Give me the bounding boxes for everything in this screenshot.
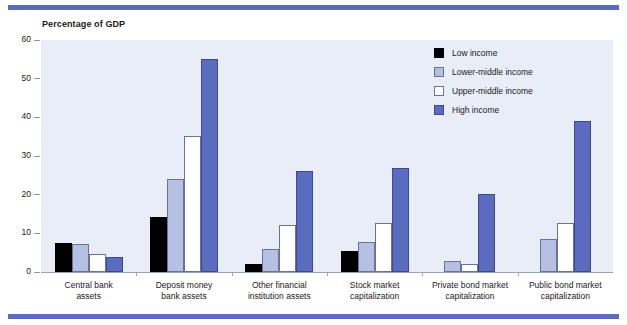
x-axis-category-label-line: Stock market [327,280,422,291]
bar-group [41,40,136,272]
bar [245,264,262,272]
x-axis-category-label-line: Public bond market [518,280,613,291]
legend-item-lower-middle-income[interactable]: Lower-middle income [434,67,614,77]
legend-swatch-icon [434,105,444,115]
chart-figure: Percentage of GDP 0102030405060 Low inco… [0,0,627,325]
bar-group-bars [232,40,327,272]
legend-label: Lower-middle income [452,67,533,77]
bar [557,223,574,272]
y-axis-tick-mark [34,233,40,234]
y-axis-tick-mark [34,78,40,79]
legend-item-upper-middle-income[interactable]: Upper-middle income [434,86,614,96]
legend-swatch-icon [434,48,444,58]
x-axis-category-label-line: Private bond market [422,280,517,291]
x-axis-separator [518,272,519,276]
x-axis-separator [136,272,137,276]
x-axis-category-label: Private bond marketcapitalization [422,280,517,302]
y-axis-tick-label: 20 [22,189,31,199]
y-axis: 0102030405060 [0,40,41,272]
legend-label: Upper-middle income [452,86,533,96]
x-axis-separator [232,272,233,276]
bar [184,136,201,272]
bar-group [232,40,327,272]
y-axis-tick-mark [34,156,40,157]
y-axis-tick-label: 60 [22,34,31,44]
x-axis-category-label-line: institution assets [232,291,327,302]
y-axis-tick-label: 0 [26,266,31,276]
y-axis-tick-label: 30 [22,150,31,160]
bar [478,194,495,272]
bar [55,243,72,272]
legend-swatch-icon [434,67,444,77]
bar-group [136,40,231,272]
x-axis-category-label: Central bankassets [41,280,136,302]
x-axis-category-label-line: Deposit money [136,280,231,291]
y-axis-tick-mark [34,272,40,273]
x-axis-category-label-line: Other financial [232,280,327,291]
x-axis-category-label-line: capitalization [422,291,517,302]
x-axis-category-label: Deposit moneybank assets [136,280,231,302]
legend-item-high-income[interactable]: High income [434,105,614,115]
legend-swatch-icon [434,86,444,96]
x-axis-category-label-line: assets [41,291,136,302]
y-axis-tick-label: 10 [22,227,31,237]
bar-group-bars [136,40,231,272]
bar [279,225,296,272]
bottom-rule [8,314,619,319]
bar [201,59,218,272]
y-axis-tick-mark [34,194,40,195]
legend-label: Low income [452,48,497,58]
y-axis-tick-mark [34,117,40,118]
x-axis-category-label-line: capitalization [327,291,422,302]
bar [167,179,184,272]
chart-legend: Low incomeLower-middle incomeUpper-middl… [434,48,614,124]
bar [341,251,358,272]
y-axis-tick-label: 40 [22,111,31,121]
bar-group-bars [41,40,136,272]
y-axis-tick-label: 50 [22,73,31,83]
x-axis-category-label-line: capitalization [518,291,613,302]
top-rule [8,5,619,10]
bar [444,261,461,272]
x-axis-separator [327,272,328,276]
bar-group [327,40,422,272]
bar [150,217,167,272]
x-axis-category-label: Other financialinstitution assets [232,280,327,302]
x-axis-category-label: Public bond marketcapitalization [518,280,613,302]
x-axis-category-label-line: bank assets [136,291,231,302]
x-axis-category-label: Stock marketcapitalization [327,280,422,302]
legend-item-low-income[interactable]: Low income [434,48,614,58]
chart-title: Percentage of GDP [42,19,125,29]
x-axis-category-label-line: Central bank [41,280,136,291]
bar [262,249,279,272]
bar [574,121,591,272]
bar [358,242,375,272]
bar [392,168,409,272]
bar [89,254,106,272]
bar [296,171,313,272]
bar [106,257,123,272]
bar [72,244,89,272]
x-axis-separator [422,272,423,276]
bar [461,264,478,272]
y-axis-tick-mark [34,40,40,41]
bar [375,223,392,272]
legend-label: High income [452,105,499,115]
bar [540,239,557,272]
bar-group-bars [327,40,422,272]
